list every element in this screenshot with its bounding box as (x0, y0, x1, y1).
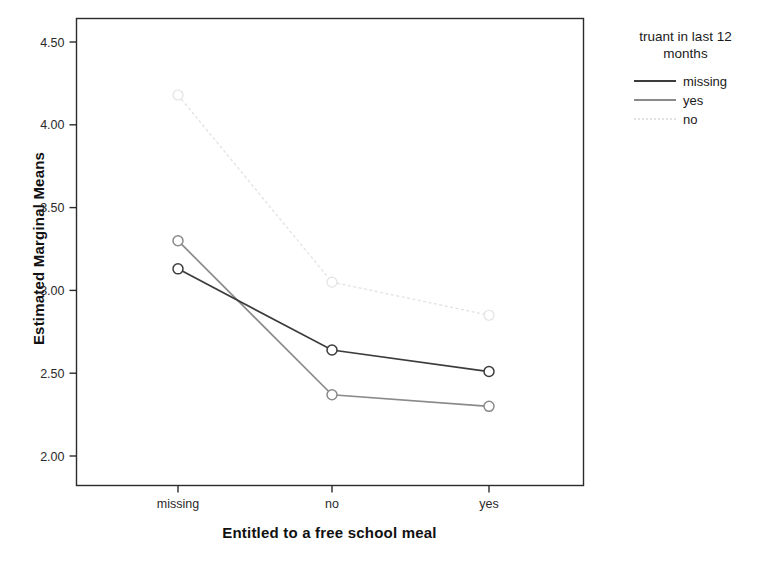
x-axis-ticks: missingnoyes (157, 486, 499, 511)
y-tick-label: 3.00 (40, 284, 64, 298)
y-tick-label: 2.50 (40, 367, 64, 381)
data-point-marker (327, 345, 337, 355)
legend-items: missingyesno (634, 72, 764, 128)
legend-label: no (683, 112, 697, 127)
legend-title-line-1: truant in last 12 (639, 29, 731, 44)
legend-item-missing: missing (634, 72, 764, 90)
data-point-marker (327, 277, 337, 287)
x-tick-label: yes (479, 497, 498, 511)
y-tick-label: 3.50 (40, 201, 64, 215)
plot-border (77, 19, 584, 486)
legend-label: yes (683, 93, 703, 108)
data-point-marker (173, 264, 183, 274)
legend-label: missing (683, 74, 727, 89)
legend-item-no: no (634, 110, 764, 128)
legend-swatch-no (634, 114, 676, 124)
chart-page: Estimated Marginal Means 2.002.503.003.5… (0, 0, 764, 567)
data-point-marker (173, 90, 183, 100)
y-tick-label: 2.00 (40, 450, 64, 464)
data-point-marker (484, 401, 494, 411)
data-point-marker (484, 367, 494, 377)
y-tick-label: 4.50 (40, 36, 64, 50)
x-tick-label: missing (157, 497, 199, 511)
y-axis-ticks: 2.002.503.003.504.004.50 (40, 36, 76, 464)
legend-title-line-2: months (663, 46, 707, 61)
x-axis-title: Entitled to a free school meal (76, 524, 583, 541)
data-point-marker (484, 310, 494, 320)
data-point-marker (173, 236, 183, 246)
legend-title: truant in last 12 months (614, 28, 757, 62)
legend: truant in last 12 months missingyesno (614, 28, 764, 129)
data-point-marker (327, 390, 337, 400)
legend-swatch-yes (634, 95, 676, 105)
legend-item-yes: yes (634, 91, 764, 109)
legend-swatch-missing (634, 76, 676, 86)
plot-frame (77, 19, 584, 486)
y-tick-label: 4.00 (40, 118, 64, 132)
x-tick-label: no (325, 497, 339, 511)
